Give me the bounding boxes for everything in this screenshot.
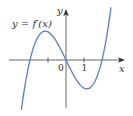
- x-axis-label: x: [119, 63, 125, 74]
- tick-label-1: 1: [82, 63, 88, 73]
- y-axis-label: y: [56, 5, 63, 16]
- function-label: y = f′(x): [11, 18, 52, 29]
- origin-label: 0: [58, 63, 64, 73]
- function-graph: y = f′(x) y x 0 1: [0, 0, 133, 116]
